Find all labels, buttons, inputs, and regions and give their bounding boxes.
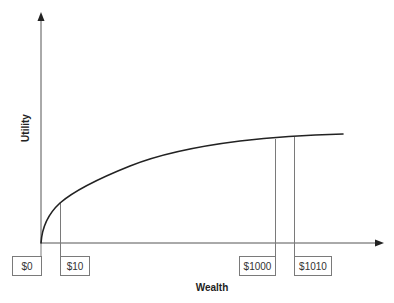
x-axis [41, 240, 384, 247]
y-axis-arrow-icon [38, 12, 45, 21]
utility-curve [41, 134, 343, 243]
y-axis-title: Utility [20, 114, 31, 142]
guide-lines [41, 137, 295, 256]
x-axis-arrow-icon [375, 240, 384, 247]
x-axis-title: Wealth [196, 282, 229, 293]
tick-label-10: $10 [60, 256, 90, 276]
tick-label-1000: $1000 [239, 256, 276, 276]
tick-label-1010: $1010 [294, 256, 332, 276]
y-axis [38, 12, 45, 243]
tick-label-0: $0 [12, 256, 42, 276]
